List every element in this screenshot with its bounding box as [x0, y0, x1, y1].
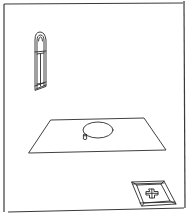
arched-window: [35, 32, 46, 90]
floor-plane: [29, 118, 166, 153]
picture-frame: [4, 1, 185, 212]
cross-tile: [132, 181, 176, 206]
drawing-canvas: [0, 0, 189, 217]
ellipse-shape: [83, 122, 113, 138]
